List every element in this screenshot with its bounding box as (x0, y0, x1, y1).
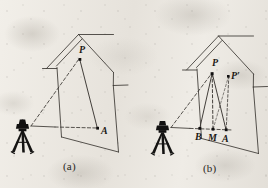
panel-b-gable-right (219, 36, 254, 74)
panel-b-label-A: A (222, 134, 229, 144)
panel-b-point-P-marker (211, 72, 214, 75)
panel-a-label-P: P (79, 45, 85, 55)
panel-a-gable-left (47, 35, 79, 69)
panel-b-gable-left-inner (197, 41, 223, 68)
panel-b-point-A-marker (225, 128, 228, 131)
panel-b-drawing (171, 36, 268, 154)
panel-b-segment-PA (212, 74, 226, 130)
panel-b-point-M-marker (212, 128, 215, 131)
panel-b-point-B-marker (198, 127, 201, 130)
panel-a-horizontal-ray (31, 126, 55, 127)
panel-b-point-Pprime-marker (227, 75, 230, 78)
panel-a-wall-right-edge (113, 86, 118, 152)
panel-a-wall-bottom-edge (62, 137, 119, 152)
panel-b-label-P-prime: P′ (231, 71, 240, 81)
panel-b-segment-A-Pprime (226, 77, 229, 130)
panel-b-label-B: B (195, 132, 202, 142)
panel-b-segment-PB (200, 74, 212, 128)
panel-a-point-A-marker (96, 127, 99, 130)
panel-b-tripod-instrument (151, 121, 175, 156)
panel-a-wall-left-edge (57, 68, 62, 138)
panel-b-horizontal-ray (171, 128, 190, 129)
panel-a-caption: (a) (63, 160, 76, 172)
figure-drawing (0, 0, 268, 188)
panel-a-eave-right (113, 85, 128, 86)
panel-b-label-P: P (212, 58, 218, 68)
panel-a-tripod-instrument (11, 120, 35, 155)
figure-page: P A (a) P P′ B M A (b) (0, 0, 268, 188)
panel-a-segment-PA (80, 60, 98, 129)
panel-a-label-A: A (101, 126, 108, 136)
panel-b-eave-right (253, 87, 267, 88)
panel-b-label-M: M (208, 133, 217, 143)
panel-b-wall-right-edge (253, 87, 258, 153)
panel-b-caption: (b) (203, 162, 216, 174)
panel-b-segment-PM (212, 74, 213, 129)
panel-a-point-P-marker (79, 58, 82, 61)
panel-a-sight-ray-A (55, 127, 98, 128)
